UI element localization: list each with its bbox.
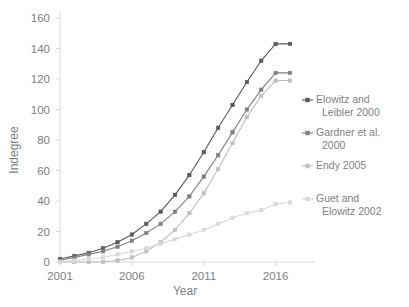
data-point-marker: [260, 94, 263, 97]
series-line: [60, 81, 290, 262]
legend-item-1[interactable]: Elowitz andLeibler 2000: [302, 93, 380, 118]
data-point-marker: [231, 141, 234, 144]
y-tick-label: 120: [31, 73, 50, 85]
data-point-marker: [216, 222, 219, 225]
series-3: [58, 79, 291, 264]
chart-series: [58, 42, 291, 263]
legend-label-line2: Leibler 2000: [322, 106, 380, 118]
x-axis-tick-labels: 2001200620112016: [47, 270, 288, 282]
data-point-marker: [116, 245, 119, 248]
data-point-marker: [173, 210, 176, 213]
legend-marker-swatch: [306, 164, 309, 167]
legend-item-3[interactable]: Endy 2005: [302, 159, 366, 171]
y-tick-label: 60: [37, 165, 50, 177]
data-point-marker: [245, 115, 248, 118]
data-point-marker: [159, 242, 162, 245]
legend-item-2[interactable]: Gardner et al.2000: [302, 126, 380, 151]
data-point-marker: [116, 259, 119, 262]
data-point-marker: [145, 222, 148, 225]
data-point-marker: [173, 193, 176, 196]
data-point-marker: [231, 216, 234, 219]
data-point-marker: [145, 247, 148, 250]
series-line: [60, 44, 290, 259]
data-point-marker: [202, 175, 205, 178]
series-line: [60, 73, 290, 261]
data-point-marker: [260, 208, 263, 211]
y-tick-label: 80: [37, 134, 50, 146]
data-point-marker: [116, 240, 119, 243]
data-point-marker: [188, 173, 191, 176]
data-point-marker: [245, 108, 248, 111]
series-2: [58, 71, 291, 262]
y-axis-ticks: [56, 18, 60, 262]
legend-marker-swatch: [306, 197, 309, 200]
series-1: [58, 42, 291, 260]
legend-label: Guet and: [316, 192, 359, 204]
x-axis-title: Year: [173, 284, 197, 298]
x-tick-label: 2001: [47, 270, 73, 282]
chart-canvas: 020406080100120140160 2001200620112016 I…: [0, 0, 409, 307]
data-point-marker: [274, 79, 277, 82]
data-point-marker: [173, 228, 176, 231]
chart-legend: Elowitz andLeibler 2000Gardner et al.200…: [302, 93, 382, 217]
x-tick-label: 2011: [191, 270, 216, 282]
y-tick-label: 140: [31, 43, 50, 55]
y-tick-label: 0: [44, 256, 50, 268]
data-point-marker: [288, 71, 291, 74]
data-point-marker: [274, 42, 277, 45]
data-point-marker: [130, 256, 133, 259]
data-point-marker: [87, 253, 90, 256]
chart-axes: [56, 12, 315, 266]
data-point-marker: [288, 42, 291, 45]
legend-item-4[interactable]: Guet andElowitz 2002: [302, 192, 382, 217]
data-point-marker: [101, 250, 104, 253]
data-point-marker: [260, 59, 263, 62]
data-point-marker: [116, 253, 119, 256]
legend-label: Endy 2005: [316, 159, 366, 171]
data-point-marker: [216, 167, 219, 170]
data-point-marker: [130, 250, 133, 253]
data-point-marker: [231, 103, 234, 106]
legend-label: Gardner et al.: [316, 126, 380, 138]
data-point-marker: [188, 212, 191, 215]
legend-marker-swatch: [306, 98, 309, 101]
legend-label-line2: Elowitz 2002: [322, 205, 382, 217]
x-tick-label: 2016: [263, 270, 289, 282]
data-point-marker: [58, 260, 61, 263]
data-point-marker: [188, 233, 191, 236]
data-point-marker: [130, 239, 133, 242]
y-tick-label: 160: [31, 12, 50, 24]
y-tick-label: 100: [31, 104, 50, 116]
y-tick-label: 40: [37, 195, 50, 207]
legend-label-line2: 2000: [322, 139, 346, 151]
data-point-marker: [202, 192, 205, 195]
y-tick-label: 20: [37, 226, 50, 238]
data-point-marker: [288, 201, 291, 204]
data-point-marker: [245, 212, 248, 215]
data-point-marker: [216, 154, 219, 157]
data-point-marker: [274, 71, 277, 74]
data-point-marker: [159, 210, 162, 213]
data-point-marker: [245, 80, 248, 83]
data-point-marker: [274, 202, 277, 205]
data-point-marker: [87, 257, 90, 260]
data-point-marker: [159, 222, 162, 225]
x-axis-ticks: [60, 262, 276, 266]
data-point-marker: [231, 131, 234, 134]
data-point-marker: [173, 237, 176, 240]
legend-label: Elowitz and: [316, 93, 370, 105]
y-axis-tick-labels: 020406080100120140160: [31, 12, 50, 268]
data-point-marker: [260, 88, 263, 91]
data-point-marker: [73, 259, 76, 262]
data-point-marker: [216, 126, 219, 129]
y-axis-title: Indegree: [7, 126, 21, 174]
line-chart: 020406080100120140160 2001200620112016 I…: [0, 0, 409, 307]
data-point-marker: [101, 256, 104, 259]
data-point-marker: [202, 228, 205, 231]
x-tick-label: 2006: [119, 270, 145, 282]
data-point-marker: [288, 79, 291, 82]
data-point-marker: [188, 195, 191, 198]
legend-marker-swatch: [306, 131, 309, 134]
data-point-marker: [202, 151, 205, 154]
data-point-marker: [130, 233, 133, 236]
